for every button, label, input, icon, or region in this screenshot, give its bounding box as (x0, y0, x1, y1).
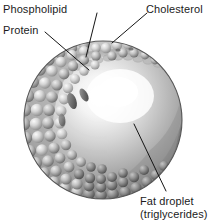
leader-line-cholesterol (112, 13, 147, 43)
label-fat-droplet-line2: (triglycerides) (140, 208, 208, 221)
label-phospholipid: Phospholipid (3, 3, 67, 16)
label-fat-droplet: Fat droplet (triglycerides) (140, 195, 208, 220)
lipoprotein-figure: Phospholipid Protein Cholesterol Fat dro… (0, 0, 216, 223)
label-cholesterol: Cholesterol (146, 3, 203, 16)
label-fat-droplet-line1: Fat droplet (140, 195, 194, 207)
label-protein: Protein (3, 24, 39, 37)
droplet-highlight-core (98, 77, 138, 107)
lipoprotein-sphere (18, 39, 188, 201)
